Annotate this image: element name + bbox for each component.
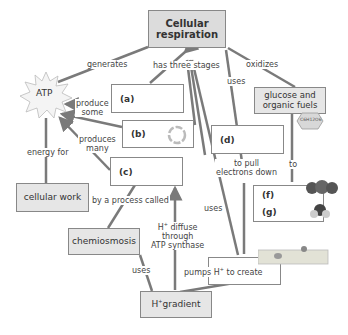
link-uses-e: uses: [203, 204, 223, 213]
h-gradient-node: H+gradient: [140, 291, 212, 318]
electron-transport-membrane-icon: [258, 244, 330, 270]
blank-box-a[interactable]: (a): [111, 84, 184, 113]
cellular-respiration-label: Cellular respiration: [149, 18, 225, 41]
link-pumps: pumps H+ to create: [183, 267, 263, 277]
blank-f-label: (f): [262, 190, 274, 200]
cellular-work-node: cellular work: [16, 183, 89, 212]
link-to-pull: to pullelectrons down: [215, 159, 278, 177]
link-uses-d: uses: [226, 77, 246, 86]
blank-b-label: (b): [131, 129, 146, 139]
blank-box-d[interactable]: (d): [211, 125, 284, 154]
link-produce-some: producesome: [75, 99, 110, 117]
link-oxidizes: oxidizes: [245, 60, 279, 69]
blank-g-label: (g): [262, 207, 277, 217]
blank-c-label: (c): [119, 167, 133, 177]
link-generates: generates: [86, 60, 128, 69]
blank-a-label: (a): [120, 94, 134, 104]
link-uses-gradient: uses: [131, 266, 151, 275]
chemiosmosis-label: chemiosmosis: [72, 236, 136, 246]
glucose-node: glucose and organic fuels: [254, 87, 326, 114]
glucose-label: glucose and organic fuels: [255, 91, 325, 111]
atp-label: ATP: [36, 88, 52, 98]
cellular-respiration-node: Cellular respiration: [148, 10, 226, 48]
glucose-formula: C6H12O6: [300, 117, 322, 122]
citric-acid-cycle-icon: [165, 123, 189, 147]
link-by-process: by a process called: [91, 196, 170, 205]
link-has-three-stages: has three stages: [152, 61, 221, 70]
link-h-diffuse: H+ diffuse throughATP synthase: [150, 222, 205, 250]
cellular-work-label: cellular work: [24, 192, 82, 202]
link-energy-for: energy for: [26, 148, 69, 157]
blank-d-label: (d): [220, 135, 235, 145]
oxygen-water-molecule-icon: [304, 180, 340, 220]
blank-box-b[interactable]: (b): [122, 120, 194, 148]
link-to: to: [288, 160, 298, 169]
link-produces-many: producesmany: [78, 135, 117, 153]
chemiosmosis-node: chemiosmosis: [68, 228, 140, 255]
h-gradient-label: H+gradient: [152, 299, 201, 309]
blank-box-c[interactable]: (c): [110, 157, 183, 186]
